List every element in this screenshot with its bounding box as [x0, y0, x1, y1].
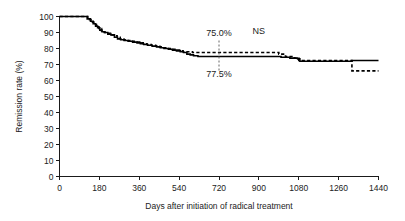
y-tick-label: 90: [44, 28, 54, 38]
x-axis-title: Days after initiation of radical treatme…: [145, 201, 293, 211]
annotation-significance: NS: [253, 26, 266, 36]
x-tick-label: 0: [57, 183, 62, 193]
chart-figure: 0102030405060708090100 01803605407209001…: [0, 0, 405, 221]
y-tick-label: 50: [44, 92, 54, 102]
series-solid-curve: [60, 17, 379, 62]
x-tick-label: 1440: [369, 183, 388, 193]
y-tick-label: 20: [44, 140, 54, 150]
y-axis-title: Remission rate (%): [14, 60, 24, 132]
x-tick-label: 1260: [329, 183, 348, 193]
x-tick-label: 540: [172, 183, 186, 193]
x-tick-label: 900: [252, 183, 266, 193]
y-tick-label: 40: [44, 108, 54, 118]
y-tick-label: 80: [44, 44, 54, 54]
y-axis-ticks: 0102030405060708090100: [39, 12, 59, 182]
y-tick-label: 0: [49, 172, 54, 182]
x-axis-ticks: 0180360540720900108012601440: [57, 177, 388, 193]
kaplan-meier-plot: 0102030405060708090100 01803605407209001…: [0, 0, 405, 221]
y-tick-label: 60: [44, 76, 54, 86]
x-tick-label: 360: [132, 183, 146, 193]
y-tick-label: 10: [44, 156, 54, 166]
x-tick-label: 720: [212, 183, 226, 193]
annotation-lower-value: 77.5%: [206, 69, 232, 79]
annotation-upper-value: 75.0%: [206, 28, 232, 38]
y-tick-label: 70: [44, 60, 54, 70]
x-tick-label: 1080: [289, 183, 308, 193]
y-tick-label: 100: [39, 12, 53, 22]
y-tick-label: 30: [44, 124, 54, 134]
x-tick-label: 180: [92, 183, 106, 193]
series-dashed-curve: [60, 17, 379, 71]
